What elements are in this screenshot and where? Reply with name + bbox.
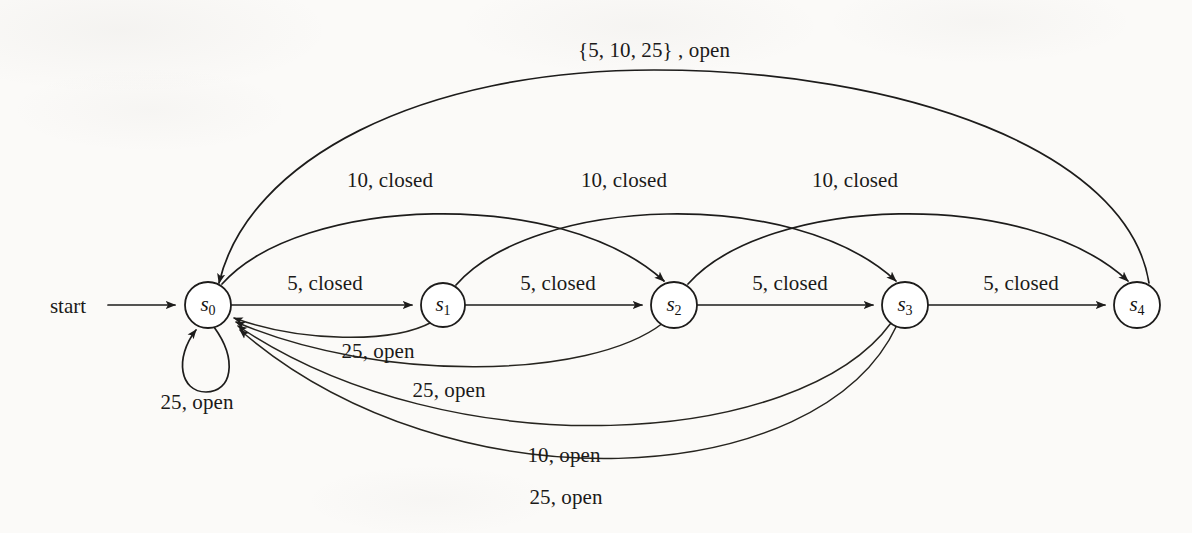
transition-label-s1-s3: 10, closed <box>581 168 667 193</box>
state-label-s1: s1 <box>435 292 450 317</box>
state-label-s3: s3 <box>897 292 912 317</box>
state-label-s3-sub: 3 <box>906 303 913 318</box>
state-label-s4-sub: 4 <box>1138 303 1145 318</box>
transition-label-s1-s0: 25, open <box>341 339 414 364</box>
transition-label-s2-s0: 25, open <box>412 378 485 403</box>
transition-label-s3-s4: 5, closed <box>983 271 1059 296</box>
edge-s1-s0 <box>234 318 432 337</box>
state-label-s1-text: s <box>435 292 443 316</box>
transition-label-s4-s0-top: {5, 10, 25} , open <box>578 38 730 63</box>
start-label: start <box>50 294 86 319</box>
state-label-s0-sub: 0 <box>209 303 216 318</box>
state-label-s2-sub: 2 <box>675 303 682 318</box>
transition-label-s0-self: 25, open <box>160 390 233 415</box>
state-label-s4-text: s <box>1129 292 1137 316</box>
state-label-s0: s0 <box>200 292 215 317</box>
transition-label-s2-s4: 10, closed <box>812 168 898 193</box>
edge-s2-s0 <box>236 322 663 367</box>
transition-label-s1-s2: 5, closed <box>520 271 596 296</box>
transition-label-s0-s2: 10, closed <box>347 168 433 193</box>
state-label-s2: s2 <box>666 292 681 317</box>
transition-label-s3-s0-10open: 10, open <box>527 443 600 468</box>
transition-label-s3-s0-25open: 25, open <box>529 485 602 510</box>
transition-label-s0-s1: 5, closed <box>287 271 363 296</box>
state-label-s0-text: s <box>200 292 208 316</box>
state-label-s4: s4 <box>1129 292 1144 317</box>
state-label-s2-text: s <box>666 292 674 316</box>
state-label-s3-text: s <box>897 292 905 316</box>
state-label-s1-sub: 1 <box>444 303 451 318</box>
transition-label-s2-s3: 5, closed <box>752 271 828 296</box>
edge-s3-s0-25open <box>240 325 897 459</box>
edge-s0-self-loop <box>183 327 230 392</box>
fsm-diagram-canvas: start s0 s1 s2 s3 s4 {5, 10, 25} , open … <box>0 0 1192 533</box>
edge-s3-s0-10open <box>238 323 891 426</box>
